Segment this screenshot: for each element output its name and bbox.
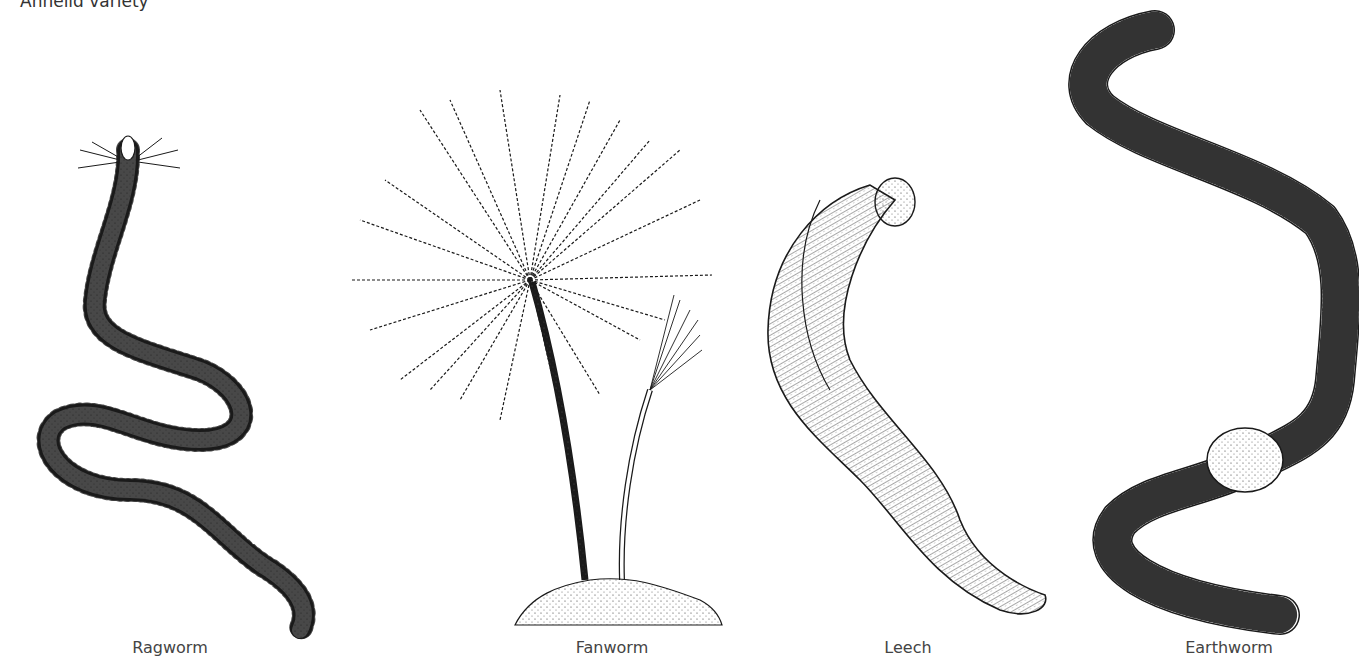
earthworm-illustration: [1088, 30, 1341, 615]
label-ragworm: Ragworm: [132, 638, 207, 657]
leech-illustration: [768, 178, 1046, 614]
label-leech: Leech: [884, 638, 931, 657]
annelid-illustrations: [0, 0, 1359, 663]
label-earthworm: Earthworm: [1185, 638, 1273, 657]
label-fanworm: Fanworm: [576, 638, 648, 657]
fanworm-illustration: [350, 90, 722, 625]
ragworm-illustration: [48, 136, 303, 630]
